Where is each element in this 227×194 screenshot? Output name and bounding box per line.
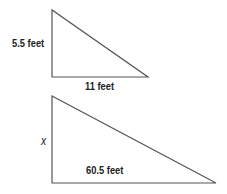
large-triangle-height-label: x bbox=[41, 134, 46, 148]
small-triangle-height-label: 5.5 feet bbox=[12, 37, 44, 49]
large-triangle bbox=[52, 96, 216, 183]
small-triangle bbox=[52, 10, 148, 77]
large-triangle-base-label: 60.5 feet bbox=[86, 164, 123, 176]
small-triangle-base-label: 11 feet bbox=[85, 80, 114, 92]
